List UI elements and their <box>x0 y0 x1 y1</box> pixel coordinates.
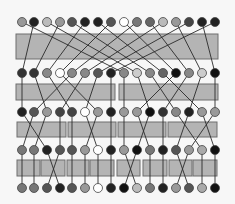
node-row5-10 <box>146 184 155 193</box>
node-row3-10 <box>146 108 155 117</box>
node-row1-10 <box>146 18 155 27</box>
node-row2-0 <box>18 69 27 78</box>
node-row4-14 <box>198 146 207 155</box>
node-row1-2 <box>43 18 52 27</box>
node-row3-14 <box>198 108 207 117</box>
node-row3-6 <box>94 108 103 117</box>
node-row5-11 <box>159 184 168 193</box>
node-row3-15 <box>211 108 220 117</box>
node-row1-12 <box>172 18 181 27</box>
stage-4-box <box>90 160 114 176</box>
stage-4-box <box>67 160 89 176</box>
node-row3-7 <box>107 108 116 117</box>
node-row4-13 <box>185 146 194 155</box>
node-row5-6 <box>94 184 103 193</box>
node-row1-6 <box>94 18 103 27</box>
node-row4-9 <box>133 146 142 155</box>
node-row5-9 <box>133 184 142 193</box>
node-row1-4 <box>68 18 77 27</box>
node-row1-14 <box>198 18 207 27</box>
stage-2-box <box>16 84 115 100</box>
node-row3-11 <box>159 108 168 117</box>
node-row2-8 <box>120 69 129 78</box>
node-row1-3 <box>56 18 65 27</box>
node-row4-1 <box>30 146 39 155</box>
node-row5-8 <box>120 184 129 193</box>
node-row1-7 <box>107 18 116 27</box>
node-row4-7 <box>107 146 116 155</box>
node-row3-12 <box>172 108 181 117</box>
stage-4-box <box>193 160 217 176</box>
node-row4-12 <box>172 146 181 155</box>
node-row1-1 <box>30 18 39 27</box>
node-row4-6 <box>94 146 103 155</box>
stage-4-box <box>17 160 40 176</box>
node-row5-14 <box>198 184 207 193</box>
node-row3-9 <box>133 108 142 117</box>
node-row5-13 <box>185 184 194 193</box>
node-row3-8 <box>120 108 129 117</box>
node-row4-2 <box>43 146 52 155</box>
node-row4-3 <box>56 146 65 155</box>
node-row4-15 <box>211 146 220 155</box>
node-row2-5 <box>81 69 90 78</box>
node-row2-12 <box>172 69 181 78</box>
node-row5-7 <box>107 184 116 193</box>
node-row5-2 <box>43 184 52 193</box>
node-row3-0 <box>18 108 27 117</box>
node-row3-13 <box>185 108 194 117</box>
node-row5-0 <box>18 184 27 193</box>
node-row5-1 <box>30 184 39 193</box>
butterfly-network-diagram <box>0 0 235 204</box>
node-row2-10 <box>146 69 155 78</box>
node-row2-4 <box>68 69 77 78</box>
node-row4-5 <box>81 146 90 155</box>
node-row1-5 <box>81 18 90 27</box>
node-row2-11 <box>159 69 168 78</box>
node-row5-5 <box>81 184 90 193</box>
node-row4-11 <box>159 146 168 155</box>
node-row4-8 <box>120 146 129 155</box>
node-row2-14 <box>198 69 207 78</box>
node-row4-0 <box>18 146 27 155</box>
node-row5-15 <box>211 184 220 193</box>
node-row2-1 <box>30 69 39 78</box>
node-row3-1 <box>30 108 39 117</box>
node-row1-11 <box>159 18 168 27</box>
node-row1-8 <box>120 18 129 27</box>
node-row1-13 <box>185 18 194 27</box>
stage-3-box <box>17 122 66 137</box>
node-row3-2 <box>43 108 52 117</box>
node-row4-10 <box>146 146 155 155</box>
node-row1-0 <box>18 18 27 27</box>
node-row5-3 <box>56 184 65 193</box>
node-row1-15 <box>211 18 220 27</box>
stage-2-box <box>119 84 218 100</box>
node-row2-13 <box>185 69 194 78</box>
node-row2-6 <box>94 69 103 78</box>
node-row2-7 <box>107 69 116 78</box>
node-row2-9 <box>133 69 142 78</box>
node-row4-4 <box>68 146 77 155</box>
node-row2-3 <box>56 69 65 78</box>
node-row1-9 <box>133 18 142 27</box>
node-row2-2 <box>43 69 52 78</box>
node-row5-4 <box>68 184 77 193</box>
node-row2-15 <box>211 69 220 78</box>
node-row5-12 <box>172 184 181 193</box>
node-row3-5 <box>81 108 90 117</box>
node-row3-4 <box>68 108 77 117</box>
node-row3-3 <box>56 108 65 117</box>
